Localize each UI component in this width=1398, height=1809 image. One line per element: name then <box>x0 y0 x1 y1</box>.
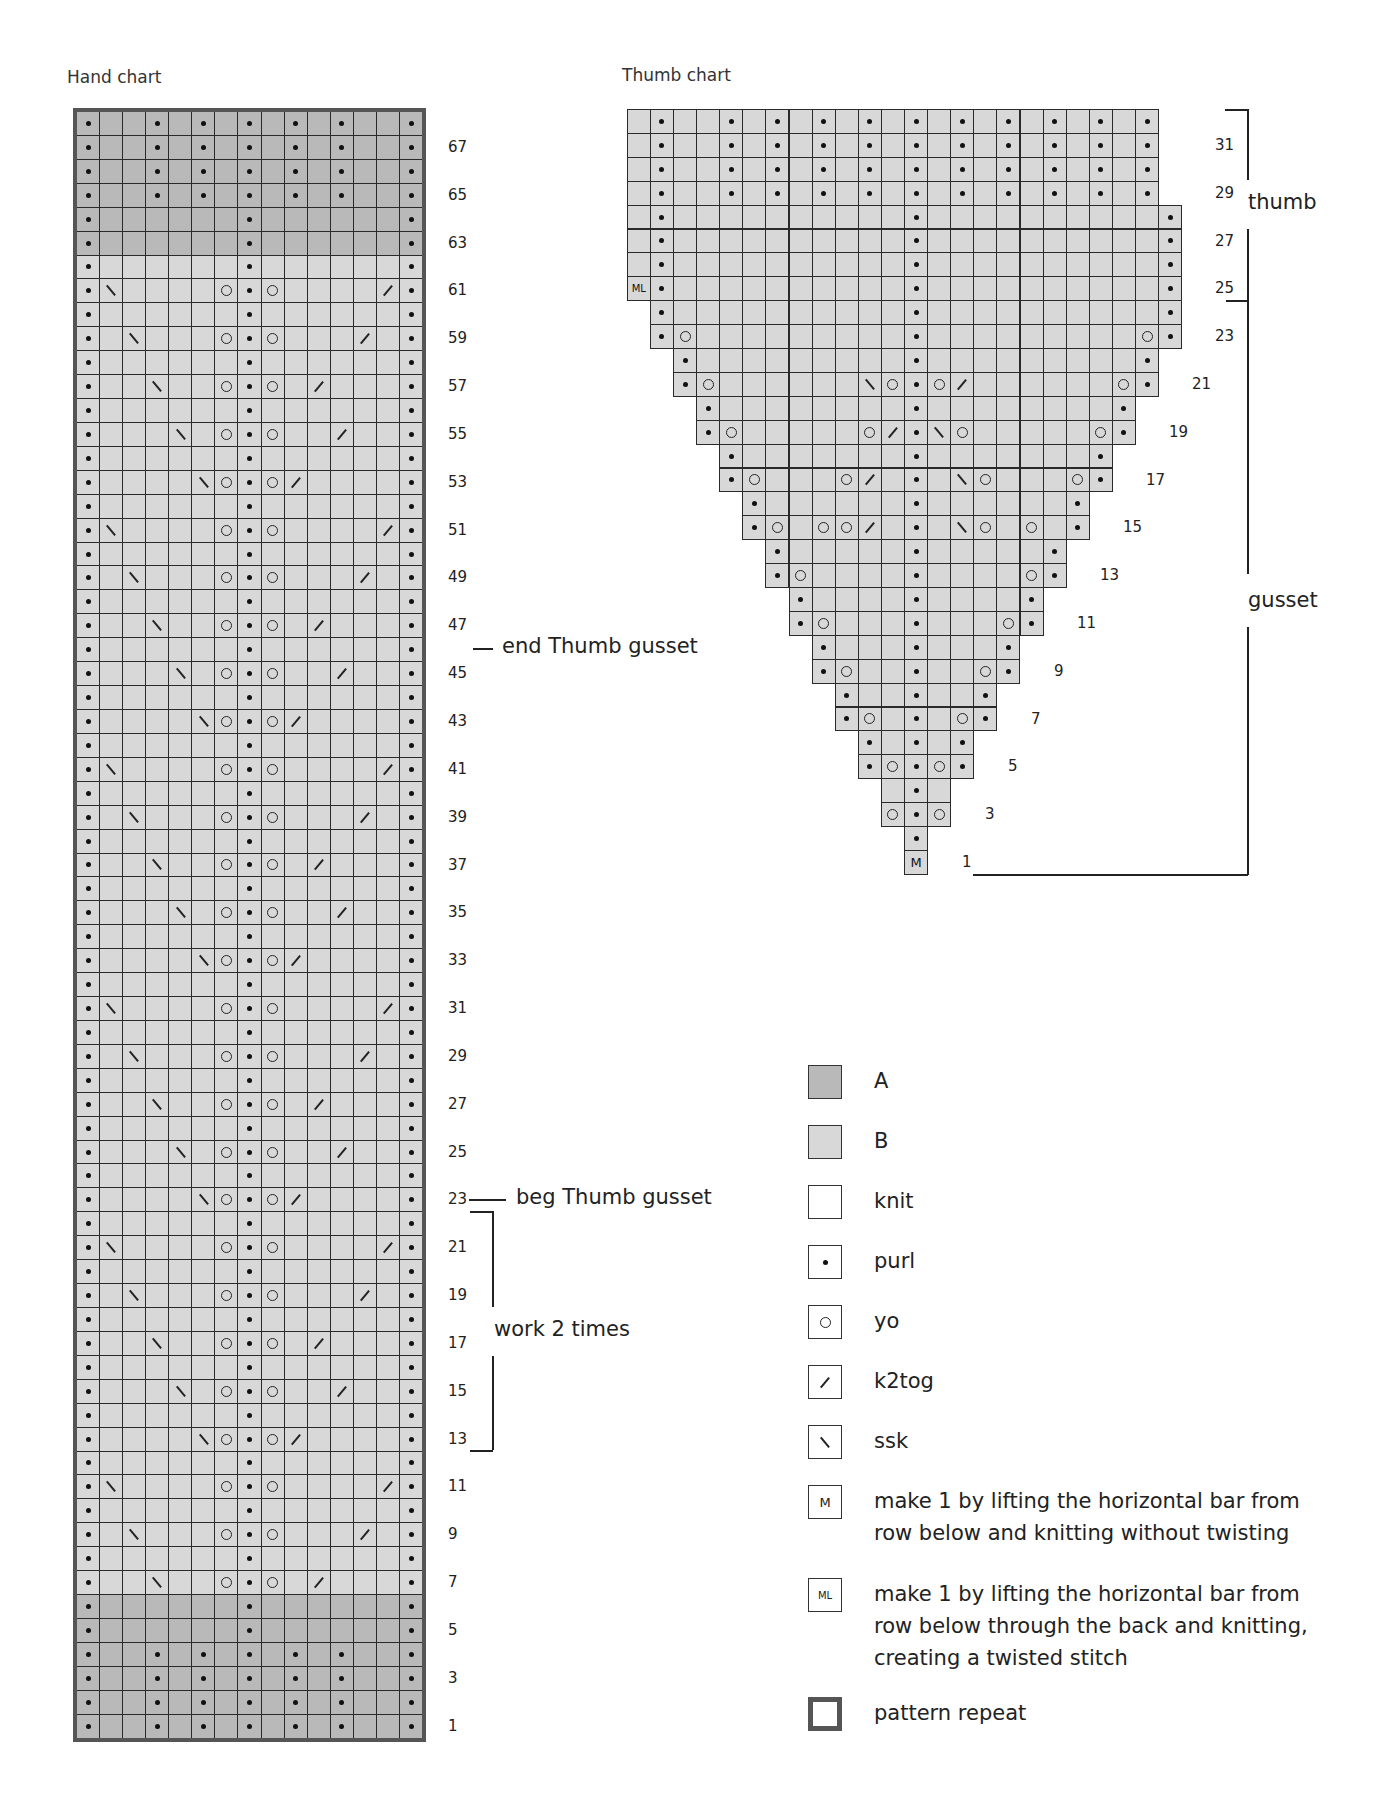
chart-cell <box>1135 181 1159 206</box>
purl-icon <box>247 719 252 724</box>
row-number: 15 <box>448 1382 467 1400</box>
purl-icon <box>659 238 664 243</box>
chart-cell <box>330 302 354 327</box>
chart-cell <box>399 398 423 423</box>
chart-cell <box>99 1211 123 1236</box>
chart-cell <box>330 1140 354 1165</box>
chart-cell <box>261 1403 285 1428</box>
chart-cell <box>789 276 813 301</box>
chart-cell <box>950 707 974 732</box>
chart-cell <box>307 1307 331 1332</box>
chart-cell <box>399 1044 423 1069</box>
chart-cell <box>99 302 123 327</box>
chart-cell <box>399 948 423 973</box>
chart-cell <box>1043 252 1067 277</box>
yo-icon <box>267 1434 278 1445</box>
chart-cell <box>284 183 308 208</box>
legend-label: yo <box>874 1305 1344 1337</box>
chart-cell <box>237 733 261 758</box>
chart-cell <box>214 565 238 590</box>
purl-icon <box>86 1532 91 1537</box>
chart-cell <box>307 1355 331 1380</box>
chart-cell <box>330 1618 354 1643</box>
chart-cell <box>145 1211 169 1236</box>
chart-cell <box>399 1666 423 1691</box>
chart-cell <box>145 1379 169 1404</box>
chart-cell <box>214 1427 238 1452</box>
chart-cell <box>261 1211 285 1236</box>
chart-cell <box>237 1498 261 1523</box>
chart-cell <box>261 183 285 208</box>
chart-cell <box>284 900 308 925</box>
row-number: 57 <box>448 377 467 395</box>
chart-cell <box>284 1140 308 1165</box>
yo-icon <box>980 666 991 677</box>
legend-item-k2tog: k2tog <box>808 1365 1344 1399</box>
chart-cell <box>330 613 354 638</box>
chart-cell <box>284 709 308 734</box>
chart-cell <box>76 1140 100 1165</box>
chart-cell <box>145 422 169 447</box>
chart-cell <box>76 1020 100 1045</box>
chart-cell <box>1043 515 1067 540</box>
chart-cell <box>261 1666 285 1691</box>
purl-icon <box>247 552 252 557</box>
chart-cell <box>1112 300 1136 325</box>
chart-cell <box>237 1403 261 1428</box>
chart-cell <box>214 350 238 375</box>
chart-cell <box>812 515 836 540</box>
chart-cell <box>742 276 766 301</box>
chart-cell <box>812 635 836 660</box>
purl-icon <box>339 1700 344 1705</box>
chart-cell <box>812 396 836 421</box>
row-number: 1 <box>448 1717 458 1735</box>
chart-cell <box>835 205 859 230</box>
chart-cell <box>950 515 974 540</box>
chart-cell <box>191 972 215 997</box>
chart-cell <box>76 1283 100 1308</box>
chart-cell <box>353 829 377 854</box>
chart-cell <box>399 829 423 854</box>
chart-cell <box>399 255 423 280</box>
chart-cell <box>122 374 146 399</box>
chart-cell <box>76 1187 100 1212</box>
chart-cell <box>168 350 192 375</box>
chart-cell <box>353 1283 377 1308</box>
chart-cell <box>399 1427 423 1452</box>
chart-cell <box>835 683 859 708</box>
chart-cell <box>237 589 261 614</box>
chart-cell <box>650 205 674 230</box>
yo-icon <box>1095 427 1106 438</box>
chart-cell <box>214 853 238 878</box>
purl-icon <box>86 599 91 604</box>
yo-icon <box>267 955 278 966</box>
k2tog-icon <box>383 1242 393 1253</box>
purl-icon <box>409 1460 414 1465</box>
purl-icon <box>659 334 664 339</box>
chart-cell <box>927 659 951 684</box>
chart-cell <box>191 542 215 567</box>
row-number: 55 <box>448 425 467 443</box>
chart-cell <box>927 229 951 254</box>
chart-cell <box>881 563 905 588</box>
chart-cell <box>627 205 651 230</box>
chart-cell <box>881 276 905 301</box>
chart-cell <box>76 661 100 686</box>
chart-cell <box>168 1690 192 1715</box>
chart-cell <box>330 231 354 256</box>
purl-icon <box>247 839 252 844</box>
purl-icon <box>1006 645 1011 650</box>
purl-icon <box>1098 119 1103 124</box>
chart-cell <box>214 1092 238 1117</box>
chart-cell <box>145 948 169 973</box>
chart-cell <box>399 1331 423 1356</box>
chart-cell <box>214 446 238 471</box>
chart-cell <box>353 422 377 447</box>
hand-chart-title: Hand chart <box>67 67 161 87</box>
chart-cell <box>191 470 215 495</box>
chart-cell <box>307 565 331 590</box>
purl-icon <box>247 432 252 437</box>
chart-cell <box>191 1522 215 1547</box>
chart-cell <box>307 1642 331 1667</box>
chart-cell <box>76 1068 100 1093</box>
